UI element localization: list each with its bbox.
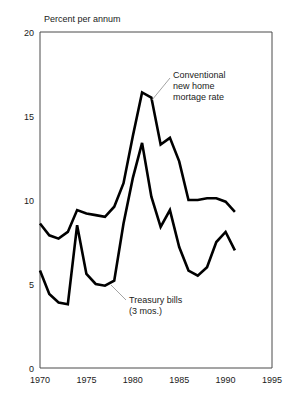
y-tick-label-0: 0	[29, 364, 34, 374]
y-tick-label-20: 20	[24, 28, 34, 38]
mortgage-annotation-line-3: mortage rate	[173, 92, 224, 102]
x-tick-label-1980: 1980	[123, 375, 143, 385]
plot-frame	[40, 32, 272, 368]
mortgage-annotation-line-1: Conventional	[173, 70, 226, 80]
mortgage-leader-line	[152, 78, 170, 100]
x-tick-label-1990: 1990	[216, 375, 236, 385]
tbill-annotation-line-1: Treasury bills	[129, 295, 183, 305]
series-line-treasury-bills	[40, 143, 235, 304]
x-tick-label-1995: 1995	[262, 375, 282, 385]
y-tick-label-5: 5	[29, 280, 34, 290]
chart-canvas: Percent per annum 20 15 10 5 0 1970 1975…	[0, 0, 289, 413]
x-tick-label-1970: 1970	[30, 375, 50, 385]
interest-rates-chart: Percent per annum 20 15 10 5 0 1970 1975…	[0, 0, 289, 413]
y-axis-title: Percent per annum	[44, 14, 121, 24]
x-tick-label-1975: 1975	[76, 375, 96, 385]
y-tick-label-15: 15	[24, 112, 34, 122]
x-tick-label-1985: 1985	[169, 375, 189, 385]
y-tick-label-10: 10	[24, 196, 34, 206]
mortgage-annotation-line-2: new home	[173, 81, 215, 91]
tbill-annotation-line-2: (3 mos.)	[129, 306, 162, 316]
tbill-leader-line	[111, 285, 126, 300]
